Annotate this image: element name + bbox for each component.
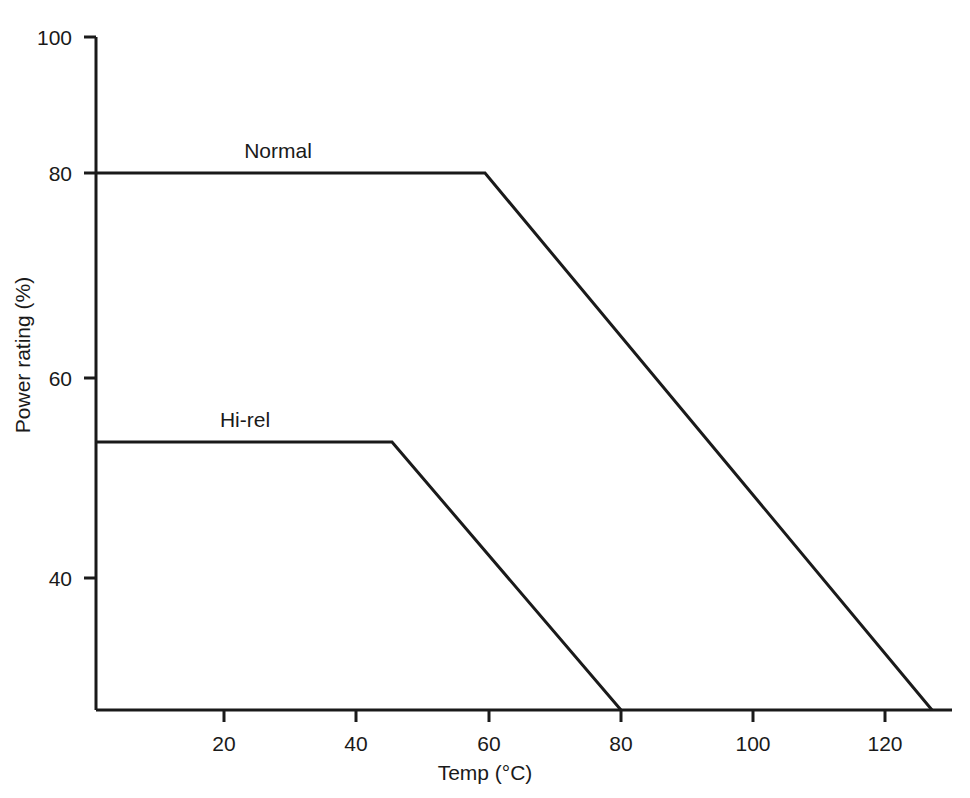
x-tick-label-100: 100	[735, 733, 770, 754]
axis-lines	[96, 37, 952, 710]
x-tick-marks	[224, 710, 885, 722]
y-axis-title: Power rating (%)	[12, 277, 33, 433]
x-tick-label-60: 60	[477, 733, 500, 754]
chart-plot-area	[0, 0, 970, 798]
x-axis-title: Temp (°C)	[438, 762, 533, 783]
y-tick-label-40: 40	[14, 568, 72, 589]
derating-chart: 100 80 60 40 20 40 60 80 100 120 Temp (°…	[0, 0, 970, 798]
x-tick-label-40: 40	[344, 733, 367, 754]
y-tick-label-100: 100	[14, 27, 72, 48]
x-tick-label-80: 80	[609, 733, 632, 754]
series-label-hirel: Hi-rel	[220, 409, 270, 430]
y-tick-marks	[84, 37, 96, 578]
y-tick-label-80: 80	[14, 163, 72, 184]
x-tick-label-120: 120	[867, 733, 902, 754]
series-label-normal: Normal	[244, 140, 312, 161]
series-line-hirel	[96, 442, 621, 710]
x-tick-label-20: 20	[212, 733, 235, 754]
